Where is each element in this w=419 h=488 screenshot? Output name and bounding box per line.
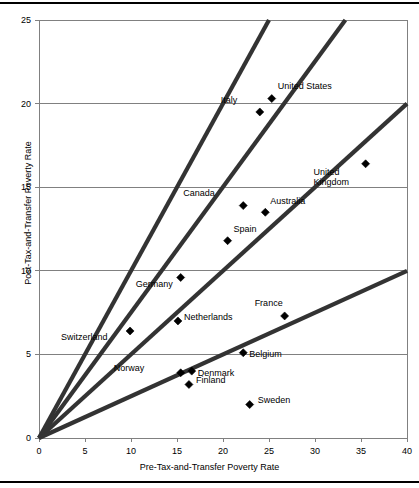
figure-container: 05101520250510152025303540 United States… — [0, 0, 419, 488]
x-tick-label-10: 10 — [118, 446, 144, 456]
data-point-marker[interactable] — [362, 160, 370, 168]
data-markers-group — [126, 95, 370, 409]
x-tick-label-25: 25 — [256, 446, 282, 456]
data-point-label: Germany — [136, 279, 173, 290]
scatter-plot-canvas — [0, 0, 419, 488]
data-point-marker[interactable] — [224, 237, 232, 245]
data-point-marker[interactable] — [246, 401, 254, 409]
data-point-label: Canada — [183, 188, 215, 199]
data-point-marker[interactable] — [261, 208, 269, 216]
x-tick-label-40: 40 — [394, 446, 419, 456]
x-tick-label-20: 20 — [210, 446, 236, 456]
data-point-label: United Kingdom — [314, 167, 362, 188]
data-point-label: United States — [278, 81, 332, 92]
data-point-label: Netherlands — [184, 312, 233, 323]
data-point-label: Sweden — [258, 395, 291, 406]
data-point-marker[interactable] — [256, 108, 264, 116]
data-point-marker[interactable] — [281, 312, 289, 320]
data-point-marker[interactable] — [268, 95, 276, 103]
data-point-label: Norway — [114, 363, 145, 374]
data-point-label: Spain — [234, 224, 257, 235]
y-tick-label-20: 20 — [5, 99, 31, 109]
y-tick-label-25: 25 — [5, 15, 31, 25]
data-point-marker[interactable] — [174, 317, 182, 325]
data-point-marker[interactable] — [239, 349, 247, 357]
data-point-marker[interactable] — [126, 327, 134, 335]
data-point-label: Australia — [270, 196, 305, 207]
data-point-label: Italy — [221, 95, 238, 106]
data-point-label: France — [255, 298, 283, 309]
data-point-label: Belgium — [249, 349, 282, 360]
data-point-marker[interactable] — [177, 273, 185, 281]
x-tick-label-30: 30 — [302, 446, 328, 456]
x-tick-label-0: 0 — [26, 446, 52, 456]
data-point-marker[interactable] — [185, 380, 193, 388]
data-point-label: Finland — [196, 375, 226, 386]
data-point-marker[interactable] — [239, 202, 247, 210]
data-point-label: Switzerland — [61, 332, 108, 343]
y-axis-title: Post-Tax-and-Transfer Poverty Rate — [23, 113, 33, 313]
y-tick-label-5: 5 — [5, 349, 31, 359]
x-tick-label-35: 35 — [348, 446, 374, 456]
x-axis-title: Pre-Tax-and-Transfer Poverty Rate — [0, 462, 419, 472]
x-tick-label-15: 15 — [164, 446, 190, 456]
y-tick-label-0: 0 — [5, 433, 31, 443]
x-tick-label-5: 5 — [72, 446, 98, 456]
